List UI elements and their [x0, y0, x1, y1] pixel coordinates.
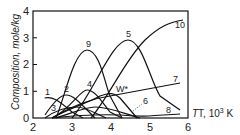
label-7: 7 [173, 74, 178, 84]
composition-chart: 0 1 2 3 4 2 3 4 5 6 Composition, mole/kg… [0, 0, 240, 135]
label-5: 5 [126, 29, 131, 39]
y-tick-1: 1 [23, 85, 29, 97]
x-tick-5: 5 [147, 121, 153, 133]
y-axis-label: Composition, mole/kg [10, 13, 21, 110]
label-8: 8 [166, 105, 171, 115]
x-tick-4: 4 [108, 121, 114, 133]
label-w-star: W* [116, 84, 128, 94]
y-tick-4: 4 [23, 5, 29, 17]
x-tick-labels: 2 3 4 5 6 [30, 121, 191, 133]
curve-labels: 1 2 3 4 5 6 7 8 9 10 W* [45, 20, 185, 115]
label-3: 3 [51, 103, 56, 113]
label-6: 6 [143, 96, 148, 106]
y-tick-labels: 0 1 2 3 4 [23, 5, 29, 124]
y-tick-2: 2 [23, 58, 29, 70]
label-1: 1 [45, 87, 50, 97]
label-2: 2 [64, 84, 69, 94]
label-4: 4 [87, 79, 92, 89]
curves [45, 20, 183, 118]
label-10: 10 [175, 20, 185, 30]
label-9: 9 [86, 39, 91, 49]
x-tick-2: 2 [30, 121, 36, 133]
plot-frame [33, 11, 188, 118]
x-tick-3: 3 [69, 121, 75, 133]
y-tick-0: 0 [23, 112, 29, 124]
curve-10 [91, 20, 183, 118]
y-tick-3: 3 [23, 32, 29, 44]
x-tick-6: 6 [185, 121, 191, 133]
leader-6 [133, 104, 142, 111]
x-axis-label: TT, 103 K [192, 107, 233, 119]
